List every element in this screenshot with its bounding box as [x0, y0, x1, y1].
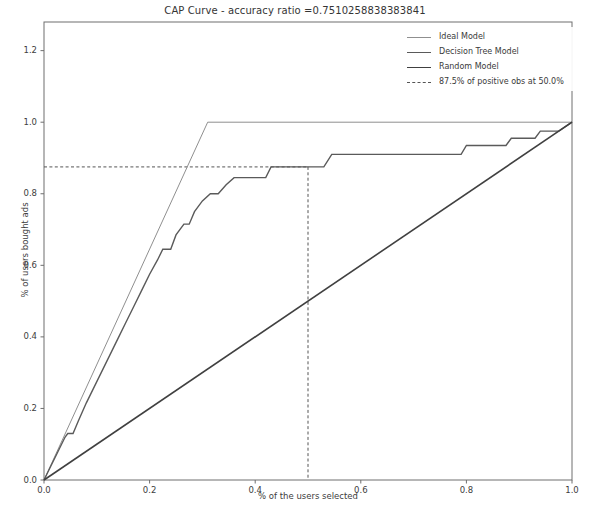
y-tick-label: 0.2: [0, 403, 37, 413]
legend-swatch-icon: [403, 46, 433, 58]
y-tick-label: 1.2: [0, 45, 37, 55]
x-tick-label: 0.6: [341, 485, 381, 495]
legend-swatch-icon: [403, 61, 433, 73]
y-axis-ticks: [41, 51, 45, 480]
legend-label: Ideal Model: [439, 32, 485, 41]
legend-swatch-icon: [403, 76, 433, 88]
legend-item[interactable]: Ideal Model: [403, 29, 575, 44]
legend-item[interactable]: Random Model: [403, 59, 575, 74]
y-tick-label: 0.8: [0, 188, 37, 198]
y-tick-label: 0.6: [0, 260, 37, 270]
legend-swatch-icon: [403, 31, 433, 43]
chart-legend: Ideal ModelDecision Tree ModelRandom Mod…: [403, 27, 575, 91]
chart-figure: CAP Curve - accuracy ratio =0.7510258838…: [0, 0, 590, 507]
x-tick-label: 0.0: [24, 485, 64, 495]
legend-item[interactable]: 87.5% of positive obs at 50.0%: [403, 74, 575, 89]
y-tick-label: 0.4: [0, 331, 37, 341]
y-tick-label: 0.0: [0, 475, 37, 485]
x-axis-ticks: [44, 480, 572, 484]
y-tick-label: 1.0: [0, 117, 37, 127]
x-tick-label: 1.0: [552, 485, 590, 495]
legend-label: Decision Tree Model: [439, 47, 519, 56]
legend-item[interactable]: Decision Tree Model: [403, 44, 575, 59]
x-tick-label: 0.8: [446, 485, 486, 495]
x-tick-label: 0.4: [235, 485, 275, 495]
legend-label: Random Model: [439, 62, 499, 71]
y-axis-label: % of users bought ads: [20, 140, 30, 360]
x-tick-label: 0.2: [130, 485, 170, 495]
legend-label: 87.5% of positive obs at 50.0%: [439, 77, 564, 86]
x-axis-label: % of the users selected: [44, 491, 572, 501]
